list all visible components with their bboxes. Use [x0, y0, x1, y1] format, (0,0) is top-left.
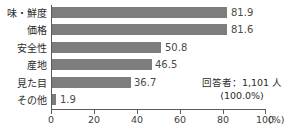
category-label: 見た目	[17, 75, 51, 92]
bar-value-label: 36.7	[134, 75, 156, 92]
category-label: 安全性	[17, 40, 51, 57]
category-label: 産地	[27, 57, 51, 74]
horizontal-bar-chart: 0 20 40 60 80 100 (%) 味・鮮度 81.9 価格 81.6 …	[0, 0, 289, 135]
bar-row: 味・鮮度 81.9	[0, 5, 289, 22]
bar	[52, 24, 227, 35]
category-label: 味・鮮度	[7, 5, 51, 22]
bar-row: 産地 46.5	[0, 57, 289, 74]
x-axis-tick-label-40: 40	[131, 114, 143, 125]
x-axis-unit-label: (%)	[268, 114, 284, 125]
x-axis-tick-label-0: 0	[48, 114, 54, 125]
bar-value-label: 50.8	[165, 40, 187, 57]
category-label: その他	[17, 92, 51, 109]
bar-value-label: 1.9	[60, 92, 76, 109]
x-axis-line	[51, 109, 266, 110]
category-label: 価格	[27, 22, 51, 39]
bar-row: 価格 81.6	[0, 22, 289, 39]
bar-value-label: 81.9	[231, 5, 253, 22]
plot-area: 0 20 40 60 80 100 (%) 味・鮮度 81.9 価格 81.6 …	[0, 0, 289, 135]
respondents-annotation: 回答者：1,101 人 (100.0%)	[196, 76, 288, 102]
bar	[52, 7, 227, 18]
bar	[52, 59, 152, 70]
bar	[52, 42, 161, 53]
respondents-percent-text: (100.0%)	[196, 89, 288, 102]
respondents-count-text: 回答者：1,101 人	[202, 77, 282, 88]
x-axis-tick-label-20: 20	[88, 114, 100, 125]
x-axis-tick-label-60: 60	[174, 114, 186, 125]
x-axis-tick-label-80: 80	[217, 114, 229, 125]
bar	[52, 94, 56, 105]
bar	[52, 77, 131, 88]
bar-row: 安全性 50.8	[0, 40, 289, 57]
bar-value-label: 81.6	[231, 22, 253, 39]
bar-value-label: 46.5	[155, 57, 177, 74]
